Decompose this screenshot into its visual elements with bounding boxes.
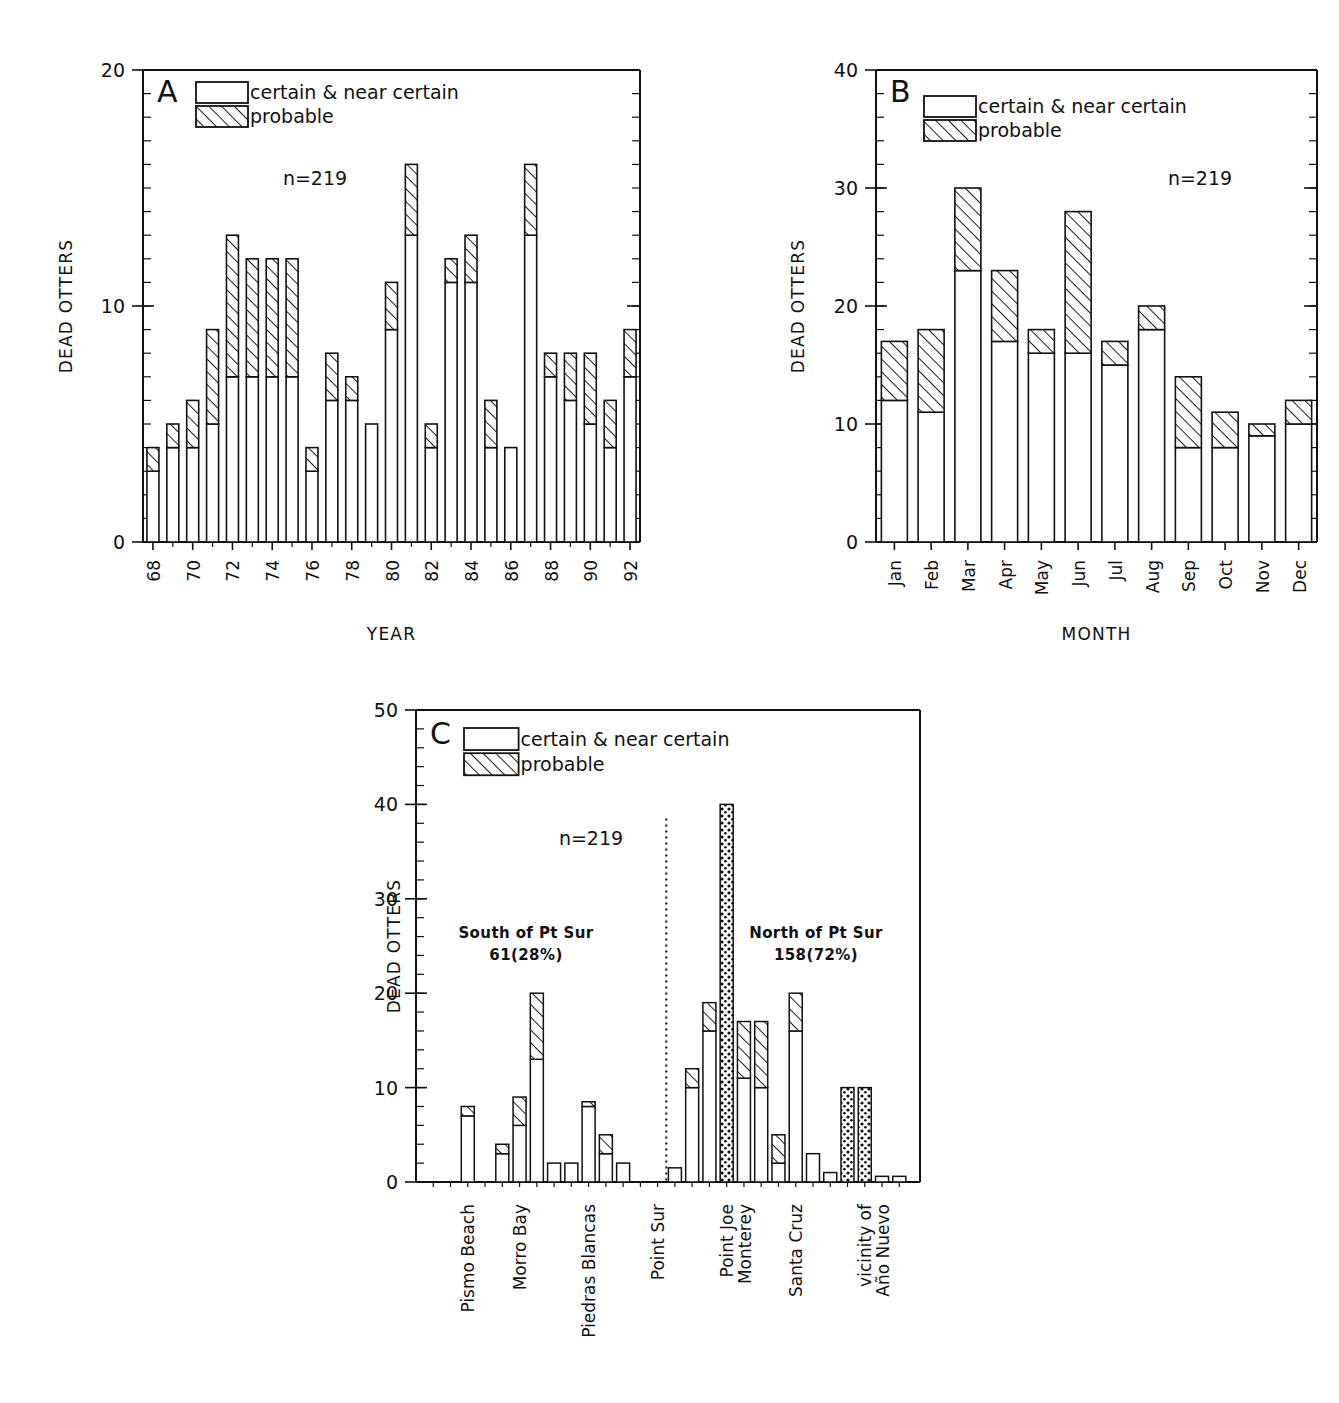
x-tick-label: Dec	[1290, 560, 1310, 593]
y-tick-label: 50	[374, 699, 398, 721]
bar-segment-certain	[582, 1106, 595, 1182]
x-tick-label: Aug	[1143, 560, 1163, 593]
bar-segment-certain	[1065, 353, 1091, 542]
x-tick-label: Sep	[1179, 560, 1199, 592]
x-tick-label: Jan	[885, 560, 905, 587]
bar-segment-certain	[461, 1116, 474, 1182]
bar-segment-certain	[564, 400, 576, 542]
bar-segment-probable	[1139, 306, 1165, 330]
legend-swatch-probable	[464, 753, 519, 775]
bar-segment-probable	[1286, 400, 1312, 424]
y-tick-label: 10	[834, 413, 858, 435]
legend-swatch-certain	[196, 82, 248, 103]
bar-segment-certain	[789, 1031, 802, 1182]
bar-segment-probable	[147, 448, 159, 472]
bar-segment-certain	[366, 424, 378, 542]
bar-segment-certain	[405, 235, 417, 542]
bar-segment-probable	[530, 993, 543, 1059]
bar-segment-certain	[1286, 424, 1312, 542]
x-tick-label: Nov	[1253, 560, 1273, 593]
bar-segment-certain	[1175, 448, 1201, 542]
legend-label-probable: probable	[978, 119, 1062, 141]
x-category-label: Piedras Blancas	[579, 1204, 599, 1338]
x-tick-label: 72	[223, 560, 243, 582]
bar-segment-certain	[858, 1088, 871, 1182]
y-tick-label: 0	[386, 1171, 398, 1193]
bar-segment-probable	[755, 1022, 768, 1088]
x-tick-label: Jun	[1069, 560, 1089, 588]
bar-segment-probable	[686, 1069, 699, 1088]
legend-label-certain: certain & near certain	[250, 81, 459, 103]
x-axis-title: YEAR	[366, 624, 416, 644]
x-tick-label: 76	[303, 560, 323, 582]
bar-segment-certain	[824, 1173, 837, 1182]
bar-segment-certain	[1102, 365, 1128, 542]
legend-label-certain: certain & near certain	[521, 728, 730, 750]
x-category-label: Pismo Beach	[458, 1204, 478, 1312]
y-tick-label: 10	[374, 1077, 398, 1099]
bar-segment-probable	[207, 330, 219, 424]
region-count-south: 61(28%)	[489, 946, 562, 964]
bar-segment-certain	[881, 400, 907, 542]
bar-segment-probable	[703, 1003, 716, 1031]
x-category-label: Point Joe	[717, 1204, 737, 1278]
bar-segment-certain	[226, 377, 238, 542]
panel-letter: A	[157, 74, 178, 109]
y-tick-label: 0	[113, 531, 125, 553]
bar-segment-probable	[1249, 424, 1275, 436]
bar-segment-certain	[955, 271, 981, 542]
region-count-north: 158(72%)	[774, 946, 858, 964]
bar-segment-certain	[918, 412, 944, 542]
bar-segment-probable	[789, 993, 802, 1031]
bar-segment-certain	[167, 448, 179, 542]
bars-group	[147, 164, 636, 542]
bar-segment-probable	[1175, 377, 1201, 448]
bar-segment-probable	[599, 1135, 612, 1154]
x-tick-label: 82	[422, 560, 442, 582]
bar-segment-probable	[1212, 412, 1238, 447]
bar-segment-probable	[246, 259, 258, 377]
bar-segment-probable	[918, 330, 944, 413]
y-tick-label: 20	[834, 295, 858, 317]
bar-segment-certain	[1212, 448, 1238, 542]
bar-segment-certain	[386, 330, 398, 542]
bar-segment-probable	[496, 1144, 509, 1153]
bar-segment-certain	[806, 1154, 819, 1182]
legend: certain & near certainprobable	[196, 81, 459, 127]
legend-swatch-probable	[196, 106, 248, 127]
panel-c-location-chart: 01020304050Ccertain & near certainprobab…	[300, 660, 1000, 1403]
x-tick-label: 68	[144, 560, 164, 582]
bar-segment-certain	[755, 1088, 768, 1182]
bar-segment-probable	[405, 164, 417, 235]
region-label-north: North of Pt Sur	[749, 924, 883, 942]
bar-segment-probable	[1065, 212, 1091, 354]
bar-segment-certain	[624, 377, 636, 542]
legend-label-probable: probable	[521, 753, 605, 775]
y-tick-label: 40	[374, 793, 398, 815]
bar-segment-certain	[346, 400, 358, 542]
bar-segment-certain	[207, 424, 219, 542]
legend: certain & near certainprobable	[924, 95, 1187, 141]
bar-segment-certain	[565, 1163, 578, 1182]
panel-letter: C	[430, 716, 451, 751]
x-tick-label: Jul	[1106, 560, 1126, 582]
panel-b-month-chart: 010203040Bcertain & near certainprobable…	[700, 0, 1339, 660]
x-tick-label: 90	[581, 560, 601, 582]
bar-segment-certain	[876, 1176, 889, 1182]
sample-size-annotation: n=219	[283, 167, 347, 189]
legend-swatch-probable	[924, 120, 976, 141]
bar-segment-certain	[513, 1125, 526, 1182]
bar-segment-certain	[1249, 436, 1275, 542]
bar-segment-probable	[584, 353, 596, 424]
bar-segment-probable	[513, 1097, 526, 1125]
x-tick-label: Feb	[922, 560, 942, 590]
bar-segment-probable	[306, 448, 318, 472]
bar-segment-certain	[548, 1163, 561, 1182]
x-axis-title: MONTH	[1062, 624, 1132, 644]
bar-segment-certain	[496, 1154, 509, 1182]
bar-segment-certain	[617, 1163, 630, 1182]
y-axis-title: DEAD OTTERS	[788, 239, 808, 373]
panel-a-svg: 01020Acertain & near certainprobablen=21…	[0, 0, 700, 660]
x-category-label: Morro Bay	[510, 1204, 530, 1290]
bar-segment-certain	[604, 448, 616, 542]
